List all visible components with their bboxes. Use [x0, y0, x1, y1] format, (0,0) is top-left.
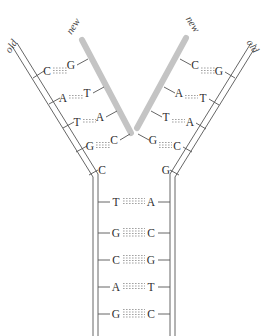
- parent-duplex-pair-4: A T: [98, 281, 170, 293]
- left-arm-pair-1-new: G: [67, 59, 75, 71]
- left-arm-pair-3-new: A: [96, 111, 105, 123]
- label-new-right: new: [184, 14, 202, 34]
- left-arm-pair-2: A T: [49, 87, 104, 104]
- left-arm-pair-1-template: C: [43, 65, 51, 77]
- parent-duplex-pair-3: C G: [98, 254, 170, 266]
- left-arm-pair-3: T A: [63, 111, 117, 128]
- parent-duplex-pair-2-left: G: [112, 227, 120, 239]
- left-arm-unpaired-1-base: C: [98, 164, 106, 176]
- left-arm-pair-3-template: T: [73, 116, 80, 128]
- right-arm-pair-1: C G: [180, 59, 235, 78]
- right-arm-pair-1-new: C: [191, 59, 199, 71]
- right-arm-pair-2-new: A: [175, 87, 184, 99]
- right-arm-pair-4: G C: [138, 134, 192, 152]
- parent-duplex-pair-5-left: G: [112, 308, 120, 320]
- parent-duplex-pair-2: G C: [98, 227, 170, 239]
- parent-duplex-basepairs: T A G C C: [98, 196, 170, 320]
- right-arm-pair-1-template: G: [215, 65, 223, 77]
- parent-duplex-pair-2-right: C: [147, 227, 155, 239]
- left-arm-pair-4: G C: [76, 134, 130, 152]
- right-arm-pair-3-new: T: [162, 111, 169, 123]
- right-arm-pair-4-new: G: [149, 134, 157, 146]
- label-old-right: old: [245, 37, 262, 55]
- left-arm-pair-2-template: A: [59, 92, 68, 104]
- label-new-left: new: [64, 16, 82, 36]
- right-arm-pair-3: T A: [151, 111, 206, 129]
- left-arm-pair-4-new: C: [110, 134, 118, 146]
- right-arm-pair-3-template: A: [186, 116, 195, 128]
- right-arm-pair-4-template: C: [173, 140, 181, 152]
- parent-duplex-pair-5: G C: [98, 308, 170, 320]
- parent-duplex-pair-4-right: T: [147, 281, 154, 293]
- dna-replication-fork-diagram: C G A T T: [0, 0, 268, 336]
- parent-duplex-pair-4-left: A: [112, 281, 121, 293]
- right-arm-unpaired-1-base: G: [162, 164, 170, 176]
- parent-duplex-pair-1-right: A: [147, 196, 156, 208]
- parent-duplex-pair-3-right: G: [147, 254, 155, 266]
- right-arm-pair-2-template: T: [199, 92, 206, 104]
- left-arm-pair-4-template: G: [86, 140, 94, 152]
- left-arm-pair-2-new: T: [83, 87, 90, 99]
- parent-duplex-pair-1: T A: [98, 196, 170, 208]
- label-old-left: old: [3, 37, 20, 55]
- right-arm-pair-2: A T: [164, 87, 219, 105]
- left-arm-pair-1: C G: [33, 59, 88, 78]
- parent-duplex-pair-1-left: T: [112, 196, 119, 208]
- parent-duplex-pair-5-right: C: [147, 308, 155, 320]
- parent-duplex-pair-3-left: C: [112, 254, 120, 266]
